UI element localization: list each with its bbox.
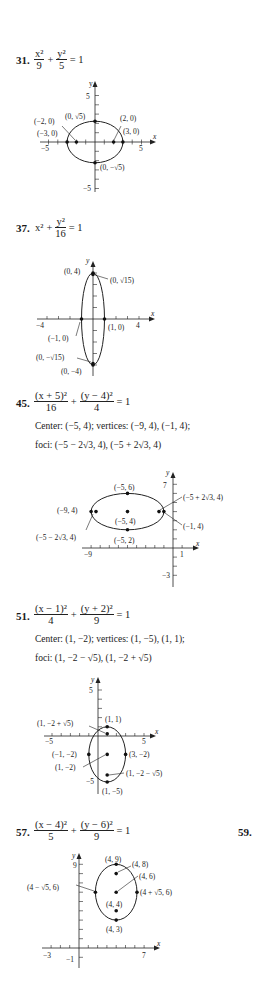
svg-text:(4, 6): (4, 6) [139, 872, 156, 881]
svg-text:(4 + √5, 6): (4 + √5, 6) [140, 888, 173, 897]
svg-text:y: y [71, 851, 76, 860]
svg-text:7: 7 [142, 951, 146, 960]
svg-text:(4 − √5, 6): (4 − √5, 6) [27, 883, 60, 892]
svg-text:−1: −1 [66, 955, 74, 964]
svg-text:x: x [156, 939, 161, 948]
svg-text:(4, 9): (4, 9) [105, 855, 122, 864]
svg-text:(4, 4): (4, 4) [106, 900, 123, 909]
svg-text:9: 9 [73, 861, 77, 870]
svg-text:(4, 8): (4, 8) [132, 860, 149, 869]
svg-text:−3: −3 [43, 951, 51, 960]
graph-57: y (4, 9) 9 (4, 8) (4, 6) (4 − √5, 6) (4 … [0, 0, 257, 1004]
svg-text:(4, 3): (4, 3) [106, 925, 123, 934]
